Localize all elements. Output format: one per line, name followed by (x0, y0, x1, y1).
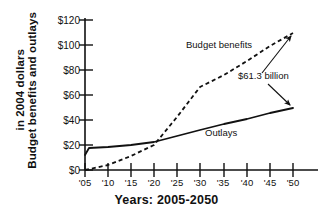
series-budget-benefits-line (85, 33, 293, 170)
annotation-arrow-lower (268, 84, 290, 105)
plot-area (0, 0, 333, 217)
series-label-outlays: Outlays (205, 127, 237, 138)
chart-container: in 2004 dollars Budget benefits and outl… (0, 0, 333, 217)
annotation-arrow-upper (262, 36, 291, 73)
series-outlays-line (85, 108, 293, 155)
x-axis-label: Years: 2005-2050 (0, 193, 333, 207)
series-label-budget-benefits: Budget benefits (186, 39, 252, 50)
annotation-gap-value: $61.3 billion (238, 70, 289, 81)
